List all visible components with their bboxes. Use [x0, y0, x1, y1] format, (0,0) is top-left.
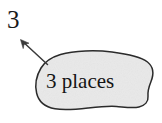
diagram-figure: 3 3 places: [0, 0, 162, 123]
callout-number-label: 3: [7, 6, 20, 34]
diagram-canvas: [0, 0, 162, 123]
blob-label: 3 places: [46, 70, 150, 92]
pointer-arrow: [21, 40, 48, 65]
